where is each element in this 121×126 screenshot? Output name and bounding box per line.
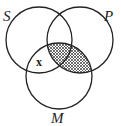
venn-diagram: S P M x: [0, 0, 121, 126]
label-s: S: [3, 8, 11, 24]
label-p: P: [103, 8, 113, 24]
x-mark: x: [36, 55, 42, 69]
venn-svg: S P M x: [0, 0, 121, 126]
label-m: M: [50, 110, 65, 126]
